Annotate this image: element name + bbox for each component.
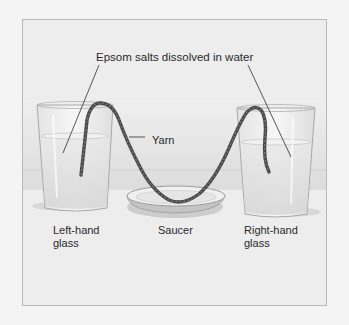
left-glass (32, 102, 113, 212)
right-glass-water (241, 142, 311, 215)
saucer-label: Saucer (158, 224, 193, 237)
right-glass (237, 105, 321, 218)
epsom-salts-label: Epsom salts dissolved in water (96, 51, 253, 64)
yarn-label: Yarn (152, 134, 174, 147)
left-glass-label-line2: glass (53, 237, 123, 250)
right-glass-label: Right-hand glass (244, 224, 324, 250)
left-glass-label: Left-hand glass (53, 224, 123, 250)
left-glass-label-line1: Left-hand (53, 224, 123, 237)
left-glass-water (41, 136, 109, 209)
right-glass-label-line1: Right-hand (244, 224, 324, 237)
right-glass-label-line2: glass (244, 237, 324, 250)
diagram-frame: Epsom salts dissolved in water Yarn Left… (22, 19, 327, 306)
